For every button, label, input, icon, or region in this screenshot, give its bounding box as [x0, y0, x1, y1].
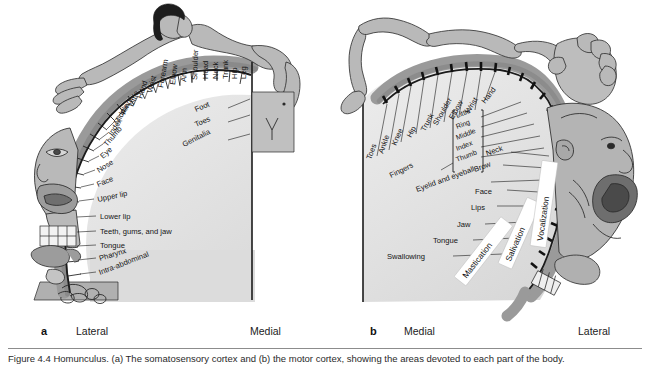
label-arm: Arm	[179, 68, 189, 83]
label-lips: Lips	[471, 203, 485, 212]
label-lower-lip: Lower lip	[100, 212, 130, 221]
label-shoulder: Shoulder	[190, 49, 200, 80]
figure-caption: Figure 4.4 Homunculus. (a) The somatosen…	[8, 353, 642, 365]
label-swallowing: Swallowing	[387, 252, 425, 261]
label-neck: Neck	[211, 61, 220, 79]
panel-a-orientation-right: Medial	[250, 325, 281, 337]
label-trunk: Trunk	[221, 60, 230, 79]
panel-b-illustration: Toes Ankle Knee Hip Trunk Shoulder Elbow…	[325, 0, 650, 322]
panel-a-orientation-left: Lateral	[76, 325, 108, 337]
panel-a-illustration: Intra-abdominal Pharynx Tongue Teeth, gu…	[0, 0, 325, 322]
panel-b-orientation-left: Medial	[404, 325, 435, 337]
label-jaw: Jaw	[457, 220, 471, 229]
label-hip: Hip	[230, 68, 239, 79]
label-elbow: Elbow	[168, 63, 180, 85]
panel-sensory-homunculus: Intra-abdominal Pharynx Tongue Teeth, gu…	[0, 0, 325, 322]
homunculus-figure: Intra-abdominal Pharynx Tongue Teeth, gu…	[0, 0, 650, 365]
panel-motor-homunculus: Toes Ankle Knee Hip Trunk Shoulder Elbow…	[325, 0, 650, 322]
orientation-labels: a Lateral Medial b Medial Lateral	[0, 322, 650, 342]
label-tongue: Tongue	[100, 241, 125, 250]
label-head: Head	[201, 61, 210, 79]
caption-divider	[8, 348, 642, 349]
panel-letter-b: b	[370, 325, 377, 337]
label-teeth-gums-jaw: Teeth, gums, and jaw	[100, 227, 172, 236]
label-face: Face	[475, 187, 492, 196]
panel-letter-a: a	[41, 325, 47, 337]
panel-b-orientation-right: Lateral	[578, 325, 610, 337]
label-leg: Leg	[239, 66, 248, 79]
label-tongue: Tongue	[433, 236, 458, 245]
